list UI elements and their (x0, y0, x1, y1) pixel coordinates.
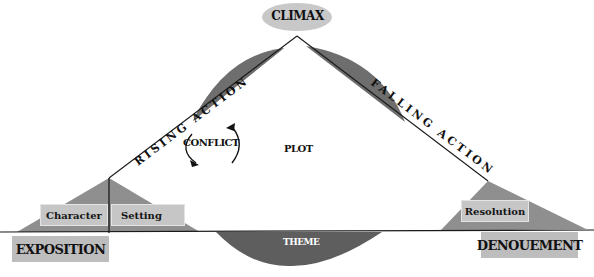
falling-action-shade (306, 46, 405, 122)
denouement-box: DENOUEMENT (481, 232, 578, 258)
exposition-box: EXPOSITION (12, 236, 109, 262)
conflict-arrow-head-top (226, 123, 235, 131)
setting-box: Setting (111, 204, 185, 226)
climax-label: CLIMAX (270, 9, 325, 23)
conflict-label: CONFLICT (183, 137, 239, 148)
character-box: Character (40, 204, 108, 226)
theme-label: THEME (283, 237, 319, 247)
plot-label: PLOT (284, 143, 313, 154)
plot-diagram: CLIMAX RISING ACTION FALLING ACTION CONF… (0, 0, 594, 277)
resolution-box: Resolution (461, 200, 529, 222)
falling-action-line (297, 36, 488, 181)
